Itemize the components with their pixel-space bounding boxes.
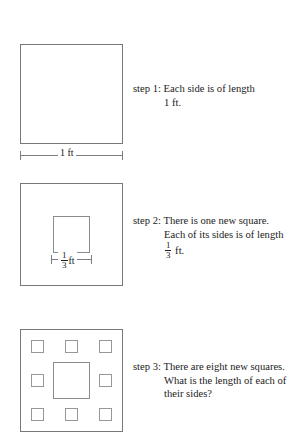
step-3-small-square (99, 408, 112, 421)
step-2-caption-unit: ft. (175, 246, 184, 257)
step-1-caption: step 1: Each side is of length 1 ft. (133, 82, 307, 109)
step-3-small-square (31, 340, 44, 353)
step-2-caption-line-1: step 2: There is one new square. (133, 214, 307, 228)
step-2-caption: step 2: There is one new square. Each of… (133, 214, 307, 260)
step-3-small-square (65, 340, 78, 353)
step-3-caption-line-1: step 3: There are eight new squares. (133, 360, 307, 374)
step-3-small-square (99, 374, 112, 387)
step-3-small-square (31, 374, 44, 387)
fraction-denominator: 3 (165, 251, 171, 260)
step-1-caption-line-1: step 1: Each side is of length (133, 82, 307, 96)
step-3-figure (0, 0, 140, 411)
step-3-small-square (31, 408, 44, 421)
step-3-caption-line-2: What is the length of each of (133, 374, 307, 388)
step-1-caption-line-2: 1 ft. (133, 96, 307, 110)
step-3-small-square (65, 408, 78, 421)
step-3-caption-line-3: their sides? (133, 387, 307, 401)
step-3-caption: step 3: There are eight new squares. Wha… (133, 360, 307, 401)
one-third-fraction: 1 3 (165, 241, 171, 260)
step-2-caption-line-3: 1 3 ft. (133, 241, 307, 260)
step-3-small-square (99, 340, 112, 353)
fraction-numerator: 1 (165, 241, 171, 250)
step-2-caption-line-2: Each of its sides is of length (133, 228, 307, 242)
step-3-center-square (53, 362, 90, 399)
